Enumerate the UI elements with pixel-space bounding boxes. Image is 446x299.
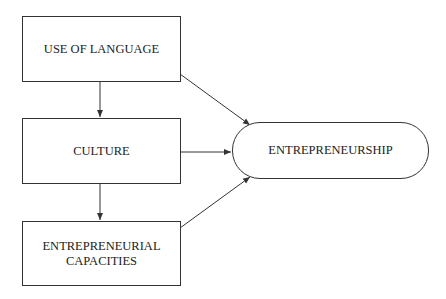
node-label: USE OF LANGUAGE — [44, 42, 159, 57]
node-entrepreneurship: ENTREPRENEURSHIP — [232, 122, 429, 179]
node-label-line2: CAPACITIES — [66, 254, 137, 269]
node-use-of-language: USE OF LANGUAGE — [22, 16, 181, 82]
node-culture: CULTURE — [22, 118, 181, 184]
node-label-line1: ENTREPRENEURIAL — [42, 239, 160, 254]
edge-language-entrepreneurship — [180, 74, 250, 125]
node-label: CULTURE — [73, 144, 130, 159]
node-label: ENTREPRENEURSHIP — [268, 143, 392, 158]
edge-capacities-entrepreneurship — [180, 177, 250, 228]
node-entrepreneurial-capacities: ENTREPRENEURIAL CAPACITIES — [22, 221, 181, 286]
